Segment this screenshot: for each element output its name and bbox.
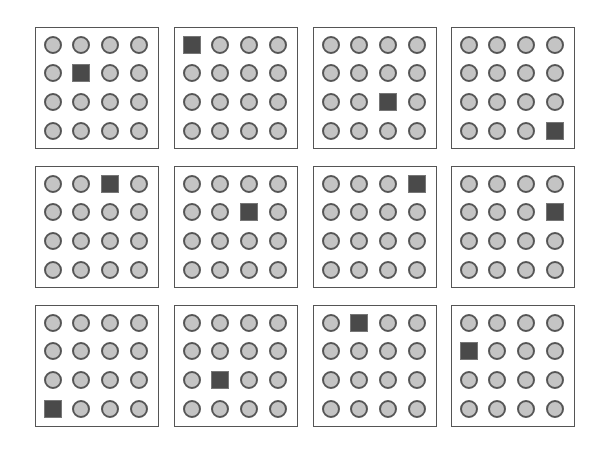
grey-circle: [183, 232, 201, 250]
grey-circle: [240, 122, 258, 140]
grey-circle: [72, 342, 90, 360]
grey-circle: [269, 342, 287, 360]
grey-circle: [211, 175, 229, 193]
grey-circle: [488, 122, 506, 140]
grey-circle: [269, 400, 287, 418]
panel-1: [35, 27, 159, 149]
grey-circle: [44, 93, 62, 111]
grey-circle: [322, 64, 340, 82]
grey-circle: [379, 175, 397, 193]
grey-circle: [44, 232, 62, 250]
grey-circle: [183, 175, 201, 193]
grey-circle: [44, 371, 62, 389]
grey-circle: [101, 232, 119, 250]
grey-circle: [350, 232, 368, 250]
grey-circle: [350, 36, 368, 54]
grey-circle: [269, 371, 287, 389]
grey-circle: [460, 122, 478, 140]
grey-circle: [240, 36, 258, 54]
grey-circle: [101, 371, 119, 389]
grey-circle: [240, 232, 258, 250]
grey-circle: [350, 175, 368, 193]
grey-circle: [408, 36, 426, 54]
grey-circle: [379, 261, 397, 279]
grey-circle: [408, 232, 426, 250]
grey-circle: [44, 314, 62, 332]
panel-9: [35, 305, 159, 427]
grey-circle: [72, 232, 90, 250]
grey-circle: [488, 400, 506, 418]
grey-circle: [211, 203, 229, 221]
grey-circle: [517, 261, 535, 279]
grey-circle: [240, 261, 258, 279]
grey-circle: [269, 203, 287, 221]
grey-circle: [240, 342, 258, 360]
grey-circle: [183, 400, 201, 418]
grey-circle: [269, 122, 287, 140]
grey-circle: [460, 261, 478, 279]
grey-circle: [350, 203, 368, 221]
grey-circle: [130, 175, 148, 193]
grey-circle: [408, 261, 426, 279]
dark-square: [408, 175, 426, 193]
grey-circle: [130, 400, 148, 418]
grey-circle: [269, 261, 287, 279]
grey-circle: [546, 36, 564, 54]
grey-circle: [269, 232, 287, 250]
panel-11: [313, 305, 437, 427]
panel-4: [451, 27, 575, 149]
dark-square: [350, 314, 368, 332]
grey-circle: [488, 64, 506, 82]
grey-circle: [72, 314, 90, 332]
grey-circle: [72, 203, 90, 221]
grey-circle: [130, 203, 148, 221]
dark-square: [72, 64, 90, 82]
grey-circle: [460, 400, 478, 418]
panel-2: [174, 27, 298, 149]
grey-circle: [460, 64, 478, 82]
grey-circle: [211, 342, 229, 360]
grey-circle: [269, 64, 287, 82]
grey-circle: [488, 342, 506, 360]
grey-circle: [183, 203, 201, 221]
grey-circle: [460, 232, 478, 250]
panel-8: [451, 166, 575, 288]
grey-circle: [460, 36, 478, 54]
grey-circle: [517, 175, 535, 193]
grey-circle: [211, 36, 229, 54]
grey-circle: [269, 93, 287, 111]
grey-circle: [350, 261, 368, 279]
grey-circle: [240, 93, 258, 111]
grey-circle: [379, 342, 397, 360]
grey-circle: [101, 122, 119, 140]
grey-circle: [379, 314, 397, 332]
grey-circle: [240, 371, 258, 389]
grey-circle: [517, 342, 535, 360]
grey-circle: [517, 371, 535, 389]
grey-circle: [183, 342, 201, 360]
grey-circle: [350, 64, 368, 82]
grey-circle: [183, 314, 201, 332]
grey-circle: [322, 203, 340, 221]
dark-square: [183, 36, 201, 54]
grey-circle: [130, 342, 148, 360]
grey-circle: [101, 342, 119, 360]
grey-circle: [408, 64, 426, 82]
dark-square: [460, 342, 478, 360]
grey-circle: [379, 371, 397, 389]
grey-circle: [546, 261, 564, 279]
grey-circle: [517, 400, 535, 418]
grey-circle: [488, 261, 506, 279]
grey-circle: [183, 93, 201, 111]
grey-circle: [130, 36, 148, 54]
dark-square: [379, 93, 397, 111]
grey-circle: [211, 400, 229, 418]
grey-circle: [488, 93, 506, 111]
grey-circle: [130, 371, 148, 389]
grey-circle: [211, 93, 229, 111]
grey-circle: [517, 93, 535, 111]
grey-circle: [517, 232, 535, 250]
grey-circle: [130, 122, 148, 140]
grey-circle: [44, 64, 62, 82]
grey-circle: [183, 122, 201, 140]
